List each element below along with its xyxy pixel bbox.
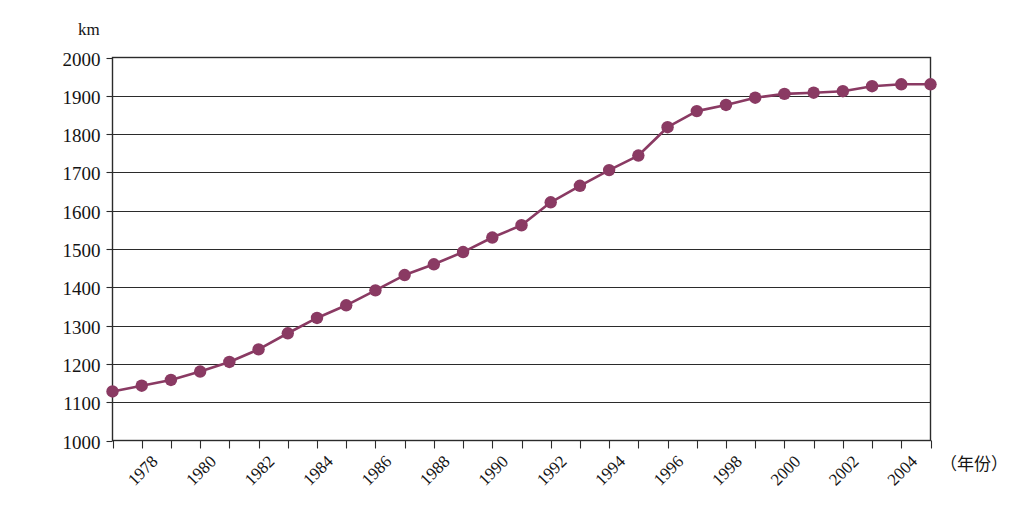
data-point	[106, 385, 118, 397]
data-point	[282, 327, 294, 339]
data-point	[515, 219, 527, 231]
x-tick-label: 1982	[241, 452, 278, 489]
y-axis-unit-label: km	[78, 20, 100, 39]
data-point	[486, 231, 498, 243]
data-point	[895, 78, 907, 90]
x-axis-tick-labels: 1978198019821984198619881990199219941996…	[124, 452, 921, 490]
chart-canvas: km 2000190018001700160015001400130012001…	[0, 0, 1024, 511]
x-tick-label: 1984	[299, 452, 337, 490]
data-point	[632, 149, 644, 161]
x-tick-label: 1990	[475, 452, 512, 489]
x-tick-label: 1994	[591, 452, 629, 490]
data-point	[749, 92, 761, 104]
data-point	[457, 246, 469, 258]
y-tick-label: 1800	[63, 125, 101, 146]
data-point	[252, 343, 264, 355]
data-point	[165, 374, 177, 386]
x-tick-label: 1988	[416, 452, 453, 489]
x-tick-label: 1986	[358, 452, 395, 489]
data-point	[398, 269, 410, 281]
data-point	[136, 380, 148, 392]
y-tick-label: 1400	[63, 278, 101, 299]
y-tick-label: 1200	[63, 355, 101, 376]
data-point	[369, 284, 381, 296]
y-tick-label: 1300	[63, 317, 101, 338]
y-tick-label: 2000	[63, 49, 101, 70]
x-tick-label: 1992	[533, 452, 570, 489]
data-point	[545, 196, 557, 208]
data-point	[223, 356, 235, 368]
data-point	[720, 99, 732, 111]
grid-lines	[107, 59, 931, 442]
data-point	[807, 87, 819, 99]
data-point	[837, 85, 849, 97]
y-tick-label: 1100	[63, 393, 100, 414]
line-chart: km 2000190018001700160015001400130012001…	[0, 0, 1024, 511]
series-markers	[106, 78, 936, 398]
data-point	[778, 88, 790, 100]
data-point	[194, 365, 206, 377]
x-tick-label: 1978	[124, 452, 161, 489]
series-line	[113, 84, 931, 391]
y-tick-label: 1700	[63, 163, 101, 184]
y-axis-tick-labels: 2000190018001700160015001400130012001100…	[63, 49, 101, 453]
y-tick-label: 1500	[63, 240, 101, 261]
x-tick-label: 1980	[182, 452, 219, 489]
y-tick-label: 1600	[63, 202, 101, 223]
x-tick-label: 1998	[708, 452, 745, 489]
x-axis-tick-marks	[114, 441, 932, 449]
y-tick-label: 1900	[63, 87, 101, 108]
data-point	[603, 164, 615, 176]
data-point	[340, 299, 352, 311]
data-point	[691, 105, 703, 117]
y-tick-label: 1000	[63, 432, 101, 453]
data-point	[428, 258, 440, 270]
x-tick-label: 2004	[884, 452, 922, 490]
x-axis-title: （年份）	[940, 455, 1008, 474]
data-point	[661, 121, 673, 133]
data-point	[311, 312, 323, 324]
x-tick-label: 2002	[825, 452, 862, 489]
data-point	[866, 80, 878, 92]
data-point	[924, 78, 936, 90]
x-tick-label: 2000	[767, 452, 804, 489]
data-point	[574, 180, 586, 192]
x-tick-label: 1996	[650, 452, 687, 489]
